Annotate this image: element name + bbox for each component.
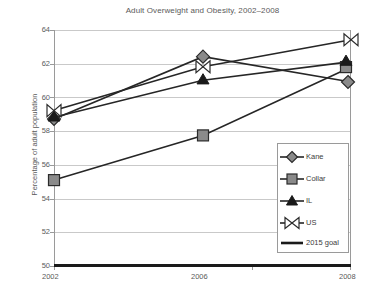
legend-label-2015-goal: 2015 goal xyxy=(306,239,339,247)
marker-collar-2006 xyxy=(198,130,209,141)
marker-kane-group xyxy=(48,50,355,125)
chart-container: Adult Overweight and Obesity, 2002–2008 … xyxy=(0,0,379,297)
legend-label-kane: Kane xyxy=(306,153,324,161)
legend-item-kane[interactable]: Kane xyxy=(278,146,350,168)
marker-kane-2006 xyxy=(197,50,210,63)
legend-label-us: US xyxy=(306,219,316,227)
legend-item-collar[interactable]: Collar xyxy=(278,168,350,190)
legend-label-il: IL xyxy=(306,197,312,205)
marker-collar-2002 xyxy=(49,175,60,186)
legend-item-us[interactable]: US xyxy=(278,212,350,234)
chart-legend[interactable]: Kane Collar IL xyxy=(277,143,349,253)
legend-marker-square-icon xyxy=(278,170,306,188)
marker-il-2006 xyxy=(197,74,209,84)
legend-marker-bowtie-icon xyxy=(278,214,306,232)
series-line-il xyxy=(54,62,351,118)
legend-item-il[interactable]: IL xyxy=(278,190,350,212)
legend-label-collar: Collar xyxy=(306,175,326,183)
marker-kane-2008 xyxy=(342,76,355,89)
legend-marker-line-icon xyxy=(278,234,306,252)
y-tick-marks xyxy=(50,31,54,267)
legend-item-2015-goal[interactable]: 2015 goal xyxy=(278,232,350,254)
legend-marker-triangle-icon xyxy=(278,192,306,210)
legend-marker-diamond-icon xyxy=(278,148,306,166)
